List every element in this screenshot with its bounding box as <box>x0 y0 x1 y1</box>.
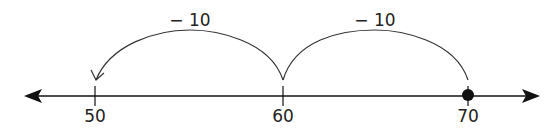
jump-arc-70-to-60 <box>283 30 468 80</box>
jump-label-60-to-50: − 10 <box>169 10 210 30</box>
jump-label-70-to-60: − 10 <box>354 10 395 30</box>
start-point-70 <box>462 89 474 101</box>
jump-arc-60-to-50 <box>96 30 283 80</box>
tick-label-70: 70 <box>457 106 479 126</box>
tick-label-50: 50 <box>84 106 106 126</box>
tick-label-60: 60 <box>272 106 294 126</box>
jump-arrowhead-icon <box>91 70 104 80</box>
